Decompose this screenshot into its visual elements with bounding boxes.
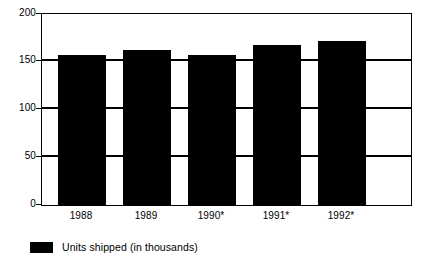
plot-area	[41, 13, 412, 206]
y-tick-label-0: 0	[0, 199, 36, 209]
y-tick-label-100: 100	[0, 103, 36, 113]
bar-1988	[58, 55, 106, 205]
bar-1991	[253, 45, 301, 205]
chart-legend: Units shipped (in thousands)	[30, 241, 198, 253]
y-tick-label-50: 50	[0, 151, 36, 161]
bar-1990	[188, 55, 236, 205]
legend-swatch-units-shipped	[30, 242, 53, 253]
x-tick-label-1991: 1991*	[246, 210, 306, 222]
y-tick-label-200: 200	[0, 8, 36, 18]
legend-label-units-shipped: Units shipped (in thousands)	[62, 241, 198, 253]
y-axis: 200 150 100 50 0	[0, 0, 36, 267]
x-axis: 1988 1989 1990* 1991* 1992*	[41, 210, 412, 226]
y-tick-label-150: 150	[0, 55, 36, 65]
bar-1992	[318, 41, 366, 205]
x-tick-label-1988: 1988	[51, 210, 111, 222]
x-tick-label-1990: 1990*	[181, 210, 241, 222]
bar-1989	[123, 50, 171, 205]
x-tick-label-1992: 1992*	[311, 210, 371, 222]
x-tick-label-1989: 1989	[116, 210, 176, 222]
bar-chart-figure: 200 150 100 50 0 1988 1989 1990* 1991* 1…	[0, 0, 425, 267]
